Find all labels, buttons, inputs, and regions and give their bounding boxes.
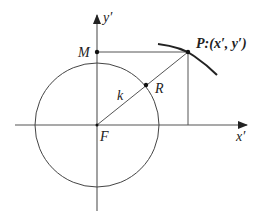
label-x-axis: x′ bbox=[235, 129, 246, 144]
label-k: k bbox=[117, 88, 124, 103]
point-m bbox=[95, 50, 99, 54]
label-p: P:(x′, y′) bbox=[196, 36, 247, 52]
line-f-p bbox=[97, 52, 188, 125]
point-r bbox=[144, 83, 148, 87]
point-f bbox=[96, 124, 99, 127]
point-p bbox=[186, 50, 190, 54]
diagram-canvas: y′ x′ M P:(x′, y′) R k F bbox=[0, 0, 261, 221]
label-m: M bbox=[77, 45, 91, 60]
label-f: F bbox=[99, 129, 109, 144]
label-r: R bbox=[154, 81, 164, 96]
label-y-axis: y′ bbox=[101, 10, 113, 25]
